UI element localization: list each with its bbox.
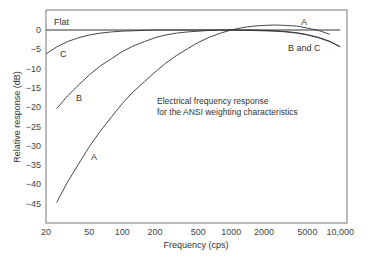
y-axis-label: Relative response (dB) (12, 71, 22, 163)
y-tick-label: −10 (26, 64, 41, 74)
x-axis-label: Frequency (cps) (163, 240, 228, 250)
label-b-low: B (76, 93, 82, 103)
x-tick-label: 100 (115, 227, 130, 237)
y-tick-label: −15 (26, 83, 41, 93)
x-tick-label: 2000 (254, 227, 274, 237)
y-tick-label: 0 (36, 25, 41, 35)
frequency-response-chart: 0−5−10−15−20−25−30−35−40−45 205010020050… (0, 0, 371, 263)
y-tick-label: −40 (26, 179, 41, 189)
x-tick-label: 500 (191, 227, 206, 237)
label-a-low: A (91, 152, 97, 162)
x-tick-label: 50 (84, 227, 94, 237)
y-tick-label: −20 (26, 102, 41, 112)
x-tick-label: 5000 (297, 227, 317, 237)
y-tick-label: −30 (26, 141, 41, 151)
y-tick-label: −35 (26, 160, 41, 170)
y-tick-label: −45 (26, 199, 41, 209)
label-c-low: C (60, 49, 67, 59)
x-axis-ticks: 205010020050010002000500010,000 (41, 227, 354, 237)
x-tick-label: 200 (147, 227, 162, 237)
x-tick-label: 20 (41, 227, 51, 237)
x-tick-label: 1000 (221, 227, 241, 237)
label-flat: Flat (54, 17, 70, 27)
y-tick-label: −25 (26, 122, 41, 132)
label-a-high: A (301, 17, 307, 27)
annotation-line-2: for the ANSI weighting characteristics (157, 107, 298, 117)
x-tick-label: 10,000 (326, 227, 354, 237)
y-tick-label: −5 (31, 44, 41, 54)
label-b-and-c: B and C (288, 43, 321, 53)
annotation-line-1: Electrical frequency response (157, 96, 269, 106)
y-axis-ticks: 0−5−10−15−20−25−30−35−40−45 (26, 25, 41, 209)
